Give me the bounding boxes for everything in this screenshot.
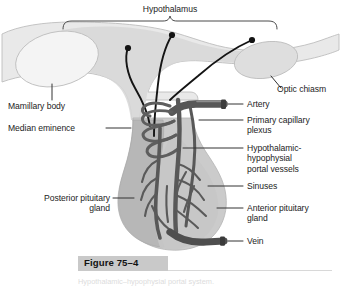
figure-container: Hypothalamus Mamillary body Median emine… — [0, 0, 340, 290]
label-hypothalamic-hypophysial-portal-vessels: Hypothalamic- hypophysial portal vessels — [247, 143, 301, 174]
figure-caption: Hypothalamic–hypophysial portal system. — [78, 277, 332, 288]
optic-chiasm-oval — [231, 37, 300, 84]
neuron-soma-2 — [169, 32, 175, 38]
label-optic-chiasm: Optic chiasm — [277, 84, 326, 94]
label-median-eminence: Median eminence — [8, 123, 75, 133]
figure-number-text: Figure 75–4 — [84, 257, 138, 268]
label-mamillary-body: Mamillary body — [8, 101, 65, 111]
neuron-soma-3 — [249, 37, 255, 43]
caption-divider-rule — [168, 270, 332, 271]
vein-cut-end-cap — [220, 237, 225, 246]
neuron-soma-1 — [125, 45, 131, 51]
label-artery: Artery — [247, 99, 270, 109]
label-hypothalamus: Hypothalamus — [110, 4, 230, 14]
label-anterior-pituitary-gland: Anterior pituitary gland — [247, 203, 309, 224]
label-vein: Vein — [247, 236, 264, 246]
artery-cut-end-cap — [221, 100, 226, 110]
label-posterior-pituitary-gland: Posterior pituitary gland — [18, 193, 110, 214]
label-primary-capillary-plexus: Primary capillary plexus — [247, 115, 310, 136]
label-sinuses: Sinuses — [247, 181, 277, 191]
